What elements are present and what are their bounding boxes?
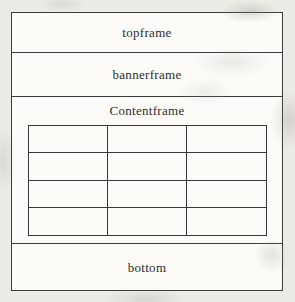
frame-label-bottom: bottom [128, 261, 167, 274]
table-cell [187, 208, 266, 235]
table-cell [29, 126, 108, 153]
table-cell [29, 208, 108, 235]
frame-bottom: bottom [12, 244, 282, 290]
frame-bannerframe: bannerframe [12, 53, 282, 97]
frame-contentframe: Contentframe [12, 97, 282, 244]
table-cell [187, 126, 266, 153]
frame-label-contentframe: Contentframe [12, 104, 282, 117]
table-cell [108, 181, 187, 208]
table-cell [187, 181, 266, 208]
content-table [28, 125, 267, 236]
table-cell [29, 153, 108, 180]
table-cell [108, 153, 187, 180]
figure-canvas: topframe bannerframe Contentframe bottom [0, 0, 295, 302]
frame-topframe: topframe [12, 13, 282, 53]
table-cell [187, 153, 266, 180]
frameset-outline: topframe bannerframe Contentframe bottom [11, 12, 283, 291]
table-cell [108, 208, 187, 235]
frame-label-bannerframe: bannerframe [113, 68, 182, 81]
frame-label-topframe: topframe [122, 26, 171, 39]
table-cell [108, 126, 187, 153]
table-cell [29, 181, 108, 208]
